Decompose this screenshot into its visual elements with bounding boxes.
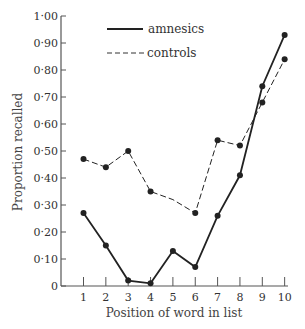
y-tick-label: 0·10 <box>34 253 59 266</box>
data-point-amnesics <box>192 264 198 270</box>
y-tick-label: 0·40 <box>34 172 59 185</box>
data-point-amnesics <box>259 83 265 89</box>
line-chart: 00·100·200·300·400·500·600·700·800·901·0… <box>0 0 305 329</box>
series-line-controls <box>84 59 285 213</box>
y-tick-label: 0·80 <box>34 64 59 77</box>
x-tick-label: 10 <box>278 291 292 304</box>
data-point-amnesics <box>215 213 221 219</box>
x-axis-title: Position of word in list <box>106 306 243 320</box>
x-tick-label: 2 <box>102 291 109 304</box>
data-point-controls <box>259 99 265 105</box>
y-tick-label: 0 <box>51 280 58 293</box>
data-point-controls <box>103 164 109 170</box>
legend-label-amnesics: amnesics <box>148 22 204 36</box>
data-point-controls <box>81 156 87 162</box>
data-point-controls <box>148 189 154 195</box>
y-tick-label: 0·60 <box>34 118 59 131</box>
x-tick-label: 8 <box>236 291 243 304</box>
series-line-amnesics <box>84 35 285 283</box>
x-tick-label: 3 <box>125 291 132 304</box>
data-point-controls <box>125 148 131 154</box>
data-point-amnesics <box>282 32 288 38</box>
y-axis-title: Proportion recalled <box>11 93 25 212</box>
data-point-amnesics <box>148 280 154 286</box>
legend: amnesics controls <box>107 22 204 60</box>
data-point-amnesics <box>237 172 243 178</box>
x-tick-label: 9 <box>259 291 266 304</box>
data-point-controls <box>215 137 221 143</box>
y-tick-label: 1·00 <box>34 10 59 23</box>
data-point-amnesics <box>125 278 131 284</box>
data-point-amnesics <box>103 243 109 249</box>
y-tick-label: 0·20 <box>34 226 59 239</box>
y-tick-label: 0·70 <box>34 91 59 104</box>
x-axis: 12345678910 <box>61 277 292 304</box>
x-tick-label: 1 <box>80 291 87 304</box>
x-tick-label: 4 <box>147 291 154 304</box>
x-tick-label: 5 <box>169 291 176 304</box>
data-point-controls <box>282 56 288 62</box>
data-point-controls <box>237 143 243 149</box>
y-axis: 00·100·200·300·400·500·600·700·800·901·0… <box>34 10 67 293</box>
y-tick-label: 0·90 <box>34 37 59 50</box>
y-tick-label: 0·50 <box>34 145 59 158</box>
legend-label-controls: controls <box>147 46 196 60</box>
x-tick-label: 6 <box>192 291 199 304</box>
x-tick-label: 7 <box>214 291 221 304</box>
y-tick-label: 0·30 <box>34 199 59 212</box>
series-group <box>81 32 288 286</box>
data-point-controls <box>192 210 198 216</box>
data-point-amnesics <box>170 248 176 254</box>
data-point-amnesics <box>81 210 87 216</box>
